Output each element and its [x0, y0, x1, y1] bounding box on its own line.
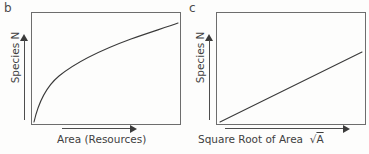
y-axis-label-c: Species N	[195, 23, 206, 93]
y-axis-b: Species N	[2, 34, 30, 120]
x-axis-c: Square Root of Area √A	[225, 124, 355, 146]
species-area-curve-b	[31, 12, 181, 125]
square-root-symbol: √A	[306, 133, 323, 145]
panel-letter-b: b	[4, 2, 12, 14]
x-axis-label-c: Square Root of Area √A	[198, 133, 324, 145]
panel-c: c Species N Square Root of Area √A	[185, 0, 369, 154]
x-axis-line	[62, 128, 130, 129]
species-area-curve-c	[216, 12, 366, 125]
arrow-right-icon	[343, 125, 350, 133]
panel-b: b Species N Area (Resources)	[0, 0, 185, 154]
y-axis-label-b: Species N	[10, 23, 21, 93]
x-axis-label-text: Square Root of Area	[198, 133, 303, 145]
panel-letter-c: c	[189, 2, 196, 14]
x-axis-line	[225, 128, 343, 129]
y-axis-c: Species N	[187, 34, 215, 120]
x-axis-label-b: Area (Resources)	[57, 133, 146, 145]
y-axis-line	[209, 40, 210, 120]
radicand-letter: A	[316, 133, 323, 145]
x-axis-b: Area (Resources)	[62, 124, 142, 146]
species-area-figure: b Species N Area (Resources) c Species N	[0, 0, 369, 154]
arrow-right-icon	[130, 125, 137, 133]
y-axis-line	[24, 40, 25, 120]
